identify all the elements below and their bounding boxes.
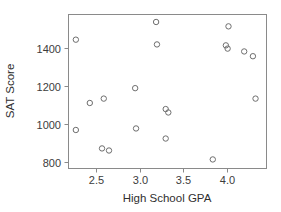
data-point bbox=[154, 42, 159, 47]
x-tick-label: 2.5 bbox=[89, 174, 104, 186]
data-point bbox=[241, 49, 246, 54]
y-axis: 800100012001400SAT Score bbox=[4, 43, 69, 169]
data-point bbox=[133, 126, 138, 131]
x-tick-label: 4.0 bbox=[220, 174, 235, 186]
y-tick-label: 800 bbox=[43, 157, 61, 169]
x-tick-label: 3.5 bbox=[176, 174, 191, 186]
plot-svg: 2.53.03.54.0High School GPA8001000120014… bbox=[0, 0, 281, 212]
data-point bbox=[153, 19, 158, 24]
data-points-group bbox=[73, 19, 258, 162]
y-tick-label: 1200 bbox=[37, 81, 61, 93]
data-point bbox=[223, 43, 228, 48]
data-point bbox=[253, 96, 258, 101]
data-point bbox=[225, 46, 230, 51]
y-axis-title: SAT Score bbox=[4, 64, 16, 119]
data-point bbox=[226, 24, 231, 29]
data-point bbox=[101, 96, 106, 101]
data-point bbox=[73, 37, 78, 42]
data-point bbox=[132, 85, 137, 90]
scatter-plot-figure: 2.53.03.54.0High School GPA8001000120014… bbox=[0, 0, 281, 212]
data-point bbox=[106, 148, 111, 153]
x-axis-title: High School GPA bbox=[123, 192, 212, 204]
y-tick-label: 1400 bbox=[37, 43, 61, 55]
data-point bbox=[210, 157, 215, 162]
data-point bbox=[99, 146, 104, 151]
data-point bbox=[87, 100, 92, 105]
data-point bbox=[73, 127, 78, 132]
data-point bbox=[250, 54, 255, 59]
x-tick-label: 3.0 bbox=[133, 174, 148, 186]
y-tick-label: 1000 bbox=[37, 119, 61, 131]
data-point bbox=[163, 136, 168, 141]
x-axis: 2.53.03.54.0High School GPA bbox=[89, 169, 235, 205]
plot-frame bbox=[69, 15, 267, 169]
